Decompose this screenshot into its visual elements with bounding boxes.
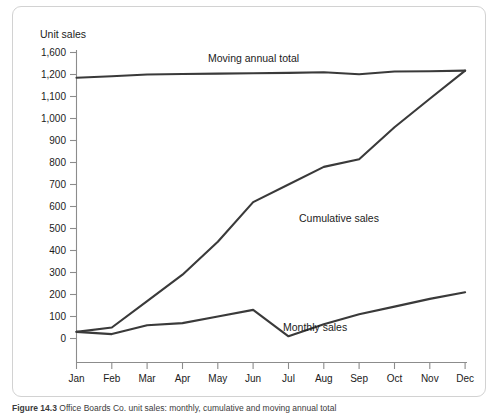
x-tick-label: Sep	[350, 373, 368, 384]
y-tick-label: 800	[49, 157, 66, 168]
y-tick-label: 1,000	[41, 113, 66, 124]
y-tick-label: 1,100	[41, 91, 66, 102]
x-axis-tick-marks	[77, 363, 466, 369]
figure-caption-text: Office Boards Co. unit sales: monthly, c…	[59, 403, 336, 413]
y-tick-label: 100	[49, 311, 66, 322]
x-tick-label: Jun	[245, 373, 261, 384]
x-tick-label: Dec	[456, 373, 474, 384]
y-tick-label: 500	[49, 223, 66, 234]
series-label-monthly-sales: Monthly sales	[283, 321, 347, 333]
y-tick-label: 700	[49, 179, 66, 190]
line-chart: Unit sales 1,600 1,200 1,100 1,000 900 8…	[13, 7, 487, 398]
x-axis-tick-labels: Jan Feb Mar Apr May Jun Jul Aug Sep Oct …	[68, 373, 474, 384]
series-label-cumulative-sales: Cumulative sales	[299, 212, 379, 224]
figure-caption-number: Figure 14.3	[12, 403, 57, 413]
y-tick-label: 200	[49, 289, 66, 300]
figure-card: Unit sales 1,600 1,200 1,100 1,000 900 8…	[12, 6, 486, 397]
chart-svg: Unit sales 1,600 1,200 1,100 1,000 900 8…	[13, 7, 487, 398]
x-tick-label: Nov	[421, 373, 439, 384]
y-tick-label: 400	[49, 245, 66, 256]
x-tick-label: Apr	[175, 373, 191, 384]
series-line-moving-annual-total	[77, 71, 466, 78]
figure-caption: Figure 14.3 Office Boards Co. unit sales…	[12, 402, 486, 414]
y-tick-label: 1,600	[41, 47, 66, 58]
y-tick-label: 900	[49, 135, 66, 146]
y-axis-title: Unit sales	[40, 28, 86, 40]
series-line-monthly-sales	[77, 292, 466, 336]
y-tick-label: 0	[60, 333, 66, 344]
y-tick-label: 300	[49, 267, 66, 278]
series-line-cumulative-sales	[77, 71, 466, 332]
y-tick-label: 600	[49, 201, 66, 212]
x-tick-label: Oct	[387, 373, 403, 384]
y-axis-tick-marks	[70, 53, 76, 339]
x-tick-label: Mar	[138, 373, 156, 384]
series-label-moving-annual-total: Moving annual total	[208, 52, 299, 64]
y-tick-label: 1,200	[41, 69, 66, 80]
y-axis-tick-labels: 1,600 1,200 1,100 1,000 900 800 700 600 …	[41, 47, 66, 344]
x-tick-label: Jul	[282, 373, 295, 384]
x-tick-label: Aug	[315, 373, 333, 384]
x-tick-label: Feb	[103, 373, 121, 384]
x-tick-label: May	[208, 373, 227, 384]
x-tick-label: Jan	[68, 373, 84, 384]
